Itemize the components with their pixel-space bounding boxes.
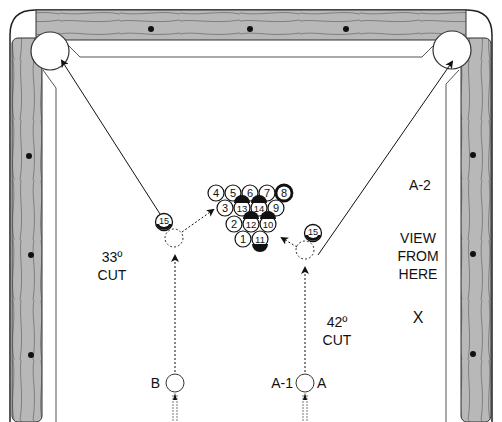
diamond-icon	[470, 351, 476, 357]
ball-3: 3	[217, 200, 233, 216]
cue-ball-b-label: B	[151, 375, 160, 391]
svg-text:5: 5	[230, 187, 236, 199]
svg-text:9: 9	[273, 202, 279, 214]
object-ball-left: 15	[156, 214, 173, 231]
svg-text:1: 1	[240, 233, 246, 245]
diamond-icon	[470, 152, 476, 158]
cue-ball-a	[296, 374, 314, 392]
svg-text:6: 6	[247, 187, 253, 199]
ball-2: 2	[226, 216, 242, 232]
right-cut-angle-label: 42º	[327, 314, 348, 330]
cue-ball-a-label: A	[317, 375, 327, 391]
diamond-icon	[28, 352, 34, 358]
svg-text:12: 12	[246, 219, 257, 230]
top-left-pocket	[31, 32, 69, 70]
svg-text:14: 14	[254, 203, 265, 214]
svg-text:7: 7	[264, 187, 270, 199]
svg-text:15: 15	[159, 216, 169, 226]
cue-ball-a1-label: A-1	[271, 375, 293, 391]
cue-ball-b	[166, 374, 184, 392]
view-from-here-line1: VIEW	[400, 230, 437, 246]
left-cut-angle-label: 33º	[102, 249, 123, 265]
diamond-icon	[148, 26, 154, 32]
view-marker-x: X	[413, 309, 424, 326]
diamond-icon	[343, 26, 349, 32]
top-rail	[36, 10, 466, 40]
ball-10: 10	[260, 211, 276, 232]
svg-text:3: 3	[222, 202, 228, 214]
svg-text:8: 8	[281, 187, 287, 199]
svg-text:15: 15	[308, 227, 318, 237]
diamond-icon	[28, 252, 34, 258]
view-from-here-line3: HERE	[399, 266, 438, 282]
diamond-icon	[247, 26, 253, 32]
position-a2-label: A-2	[409, 177, 431, 193]
pool-table-diagram: 15 15 4 5 6 7 8 3 13 14 9 2 12 10 1 11	[0, 0, 502, 422]
svg-text:13: 13	[237, 203, 248, 214]
svg-text:2: 2	[231, 218, 237, 230]
left-cut-word-label: CUT	[98, 267, 127, 283]
left-rail	[12, 38, 42, 422]
ball-1: 1	[235, 231, 251, 247]
ball-8: 8	[276, 185, 292, 201]
right-rail	[461, 38, 491, 422]
svg-text:11: 11	[255, 234, 265, 245]
object-ball-right: 15	[305, 225, 322, 242]
ball-11: 11	[252, 231, 268, 252]
diamond-icon	[470, 251, 476, 257]
right-cut-word-label: CUT	[323, 332, 352, 348]
ball-4: 4	[208, 185, 224, 201]
diamond-icon	[26, 153, 32, 159]
svg-text:4: 4	[213, 187, 219, 199]
view-from-here-line2: FROM	[397, 248, 438, 264]
svg-text:10: 10	[263, 219, 274, 230]
ball-12: 12	[243, 211, 259, 232]
top-right-pocket	[433, 31, 471, 69]
